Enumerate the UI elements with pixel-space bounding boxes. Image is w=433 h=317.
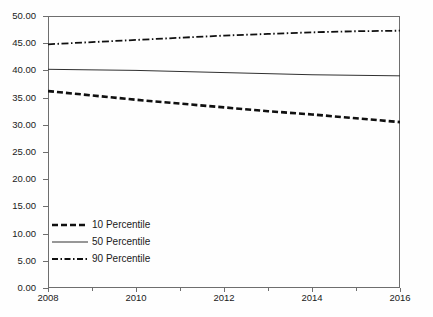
- y-tick-label: 5.00: [18, 256, 37, 266]
- y-tick-label: 45.00: [12, 38, 36, 48]
- legend-label-50-percentile: 50 Percentile: [92, 236, 150, 248]
- y-tick-label: 20.00: [12, 174, 36, 184]
- x-tick-mark: [224, 288, 225, 292]
- x-tick-mark: [400, 288, 401, 292]
- legend-line-sample-dash-dot: [52, 253, 88, 265]
- x-tick-mark-minor: [180, 288, 181, 291]
- x-tick-mark-minor: [268, 288, 269, 291]
- series-line-10-percentile: [48, 91, 400, 122]
- y-tick-label: 35.00: [12, 93, 36, 103]
- x-tick-mark-minor: [92, 288, 93, 291]
- legend-label-10-percentile: 10 Percentile: [92, 219, 150, 231]
- series-line-90-percentile: [48, 31, 400, 45]
- x-tick-mark: [136, 288, 137, 292]
- x-tick-label: 2010: [125, 292, 146, 303]
- y-axis: 50.0045.0040.0035.0030.0025.0020.0015.00…: [0, 0, 44, 317]
- series-line-50-percentile: [48, 69, 400, 76]
- x-tick-label: 2016: [389, 292, 410, 303]
- legend-item-90-percentile: 90 Percentile: [52, 250, 182, 267]
- legend-item-10-percentile: 10 Percentile: [52, 216, 182, 233]
- x-tick-mark: [48, 288, 49, 292]
- legend-line-sample-dashed: [52, 219, 88, 231]
- y-tick-label: 15.00: [12, 201, 36, 211]
- y-tick-label: 30.00: [12, 120, 36, 130]
- y-tick-label: 40.00: [12, 65, 36, 75]
- legend-line-sample-solid: [52, 236, 88, 248]
- legend-label-90-percentile: 90 Percentile: [92, 253, 150, 265]
- x-tick-mark-minor: [356, 288, 357, 291]
- y-tick-label: 25.00: [12, 147, 36, 157]
- y-tick-label: 50.00: [12, 11, 36, 21]
- x-axis: 20082010201220142016: [0, 292, 433, 312]
- legend-item-50-percentile: 50 Percentile: [52, 233, 182, 250]
- chart-legend: 10 Percentile 50 Percentile 90 Percentil…: [52, 216, 182, 267]
- x-tick-label: 2014: [301, 292, 322, 303]
- x-tick-label: 2008: [37, 292, 58, 303]
- x-tick-label: 2012: [213, 292, 234, 303]
- y-tick-label: 10.00: [12, 229, 36, 239]
- x-tick-mark: [312, 288, 313, 292]
- chart-figure: 50.0045.0040.0035.0030.0025.0020.0015.00…: [0, 0, 433, 317]
